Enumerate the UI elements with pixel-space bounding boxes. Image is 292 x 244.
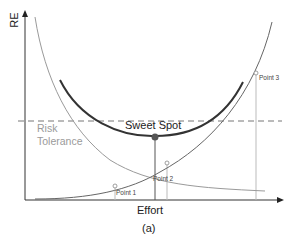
increasing-effort-curve <box>35 22 272 199</box>
risk-tolerance-line1: Risk <box>37 122 83 135</box>
x-axis-label: Effort <box>137 204 163 216</box>
point3-label: Point 3 <box>259 74 279 81</box>
risk-tolerance-line2: Tolerance <box>37 135 83 148</box>
risk-tolerance-label: Risk Tolerance <box>37 122 83 148</box>
point3-marker <box>254 71 258 75</box>
point2-marker <box>165 161 169 165</box>
point2-label: Point 2 <box>153 175 173 182</box>
decreasing-risk-curve <box>35 17 265 191</box>
figure-caption: (a) <box>142 222 155 234</box>
sweet-spot-label: Sweet Spot <box>125 119 181 131</box>
sweet-spot-dot <box>152 134 159 141</box>
point1-marker <box>113 184 117 188</box>
y-axis-label: RE <box>8 12 20 27</box>
point1-label: Point 1 <box>116 189 136 196</box>
